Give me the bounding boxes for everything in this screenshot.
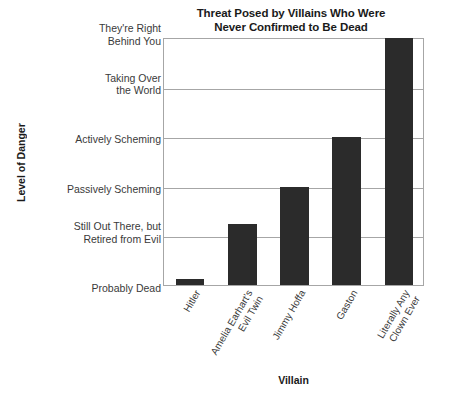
chart-title-line-1: Threat Posed by Villains Who Were: [152, 6, 430, 20]
chart-title-line-2: Never Confirmed to Be Dead: [152, 20, 430, 34]
x-axis-title: Villain: [163, 374, 424, 386]
bar: [385, 38, 414, 285]
y-axis-tick-label: They're Right Behind You: [31, 22, 161, 47]
y-axis-tick-label: Taking Over the World: [31, 72, 161, 97]
bar-chart: Threat Posed by Villains Who Were Never …: [0, 0, 466, 402]
bar: [228, 224, 257, 285]
y-axis-title: Level of Danger: [14, 108, 28, 218]
chart-title: Threat Posed by Villains Who Were Never …: [152, 6, 430, 34]
bar: [280, 187, 309, 285]
x-axis-tick-labels: HitlerAmelia Earhart's Evil TwinJimmy Ho…: [163, 288, 424, 372]
bar: [176, 279, 205, 285]
y-axis-tick-label: Passively Scheming: [31, 183, 161, 196]
bar: [332, 137, 361, 285]
y-axis-tick-label: Actively Scheming: [31, 133, 161, 146]
plot-area: [163, 38, 424, 286]
y-axis-tick-labels: Probably DeadStill Out There, but Retire…: [28, 0, 161, 402]
y-axis-tick-label: Still Out There, but Retired from Evil: [31, 220, 161, 245]
y-axis-tick-label: Probably Dead: [31, 282, 161, 295]
